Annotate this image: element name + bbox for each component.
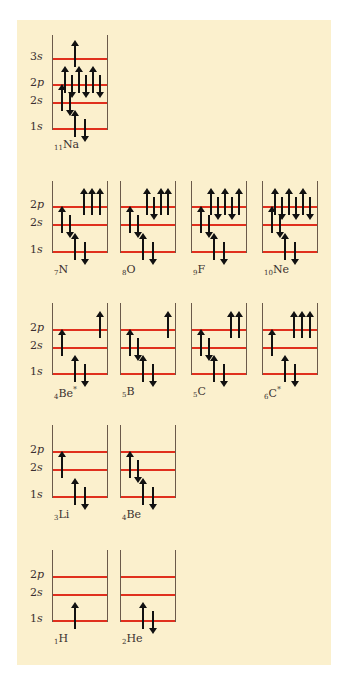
spin-up-arrow-icon [213, 238, 215, 260]
element-label-li: 3Li [54, 508, 69, 522]
energy-box-c [191, 303, 247, 375]
spin-up-arrow-icon [61, 334, 63, 356]
spin-down-arrow-icon [309, 197, 311, 215]
energy-box-be [120, 425, 176, 498]
spin-up-arrow-icon [61, 456, 63, 478]
spin-up-arrow-icon [238, 193, 240, 215]
level-line-2s [121, 594, 175, 596]
spin-up-arrow-icon [210, 193, 212, 215]
spin-down-arrow-icon [281, 197, 283, 215]
level-label-1s: 1s [30, 243, 43, 256]
spin-down-arrow-icon [137, 460, 139, 478]
element-label-be: 4Be [122, 508, 141, 522]
spin-down-arrow-icon [294, 364, 296, 382]
level-label-2p: 2p [30, 568, 44, 581]
energy-box-c-star [262, 303, 318, 375]
element-label-na: 11Na [54, 138, 79, 152]
spin-down-arrow-icon [152, 364, 154, 382]
element-label-n: 7N [54, 263, 68, 277]
element-label-o: 8O [122, 263, 136, 277]
spin-down-arrow-icon [99, 75, 101, 93]
spin-up-arrow-icon [160, 193, 162, 215]
spin-up-arrow-icon [167, 316, 169, 338]
level-line-1s [53, 373, 107, 375]
spin-down-arrow-icon [153, 197, 155, 215]
spin-down-arrow-icon [208, 338, 210, 356]
energy-box-b [120, 303, 176, 375]
level-line-1s [192, 373, 246, 375]
energy-box-li [52, 425, 108, 498]
spin-up-arrow-icon [302, 193, 304, 215]
spin-up-arrow-icon [61, 89, 63, 111]
energy-box-he [120, 550, 176, 622]
spin-up-arrow-icon [74, 238, 76, 260]
spin-up-arrow-icon [230, 316, 232, 338]
spin-up-arrow-icon [271, 334, 273, 356]
spin-down-arrow-icon [223, 242, 225, 260]
spin-up-arrow-icon [271, 211, 273, 233]
level-label-2s: 2s [30, 216, 43, 229]
spin-down-arrow-icon [217, 197, 219, 215]
spin-down-arrow-icon [69, 215, 71, 233]
spin-up-arrow-icon [200, 211, 202, 233]
level-line-1s [53, 620, 107, 622]
spin-up-arrow-icon [238, 316, 240, 338]
spin-down-arrow-icon [137, 338, 139, 356]
spin-up-arrow-icon [78, 71, 80, 93]
spin-up-arrow-icon [284, 360, 286, 382]
spin-down-arrow-icon [152, 487, 154, 505]
element-label-he: 2He [122, 632, 143, 646]
spin-up-arrow-icon [293, 316, 295, 338]
spin-down-arrow-icon [84, 487, 86, 505]
spin-up-arrow-icon [284, 238, 286, 260]
spin-up-arrow-icon [167, 193, 169, 215]
energy-box-ne [262, 181, 318, 253]
spin-up-arrow-icon [129, 334, 131, 356]
level-label-2p: 2p [30, 198, 44, 211]
spin-down-arrow-icon [152, 611, 154, 629]
level-line-1s [121, 496, 175, 498]
element-label-be-star: 4Be* [54, 385, 77, 401]
spin-up-arrow-icon [91, 193, 93, 215]
spin-down-arrow-icon [223, 364, 225, 382]
energy-box-n [52, 181, 108, 253]
level-label-2s: 2s [30, 339, 43, 352]
level-label-1s: 1s [30, 488, 43, 501]
spin-up-arrow-icon [301, 316, 303, 338]
level-label-2s: 2s [30, 94, 43, 107]
spin-down-arrow-icon [231, 197, 233, 215]
level-label-2s: 2s [30, 461, 43, 474]
spin-down-arrow-icon [279, 215, 281, 233]
energy-box-be-star [52, 303, 108, 375]
spin-up-arrow-icon [224, 193, 226, 215]
level-line-1s [53, 128, 107, 130]
level-label-3s: 3s [30, 50, 43, 63]
spin-up-arrow-icon [129, 456, 131, 478]
spin-up-arrow-icon [61, 211, 63, 233]
element-label-b: 5B [122, 385, 135, 399]
level-label-2p: 2p [30, 76, 44, 89]
element-label-h: 1H [54, 632, 68, 646]
level-label-1s: 1s [30, 365, 43, 378]
element-label-c-star: 6C* [264, 385, 281, 401]
level-line-1s [263, 251, 317, 253]
spin-down-arrow-icon [84, 242, 86, 260]
level-label-1s: 1s [30, 612, 43, 625]
spin-down-arrow-icon [137, 215, 139, 233]
spin-up-arrow-icon [99, 316, 101, 338]
level-label-2s: 2s [30, 586, 43, 599]
spin-up-arrow-icon [99, 193, 101, 215]
level-line-1s [121, 251, 175, 253]
level-label-2p: 2p [30, 443, 44, 456]
spin-up-arrow-icon [142, 607, 144, 629]
spin-up-arrow-icon [146, 193, 148, 215]
spin-down-arrow-icon [69, 93, 71, 111]
level-line-2s [53, 594, 107, 596]
element-label-ne: 10Ne [264, 263, 289, 277]
spin-down-arrow-icon [294, 242, 296, 260]
level-line-1s [53, 251, 107, 253]
spin-up-arrow-icon [74, 360, 76, 382]
spin-up-arrow-icon [74, 45, 76, 67]
spin-up-arrow-icon [213, 360, 215, 382]
level-line-1s [121, 373, 175, 375]
